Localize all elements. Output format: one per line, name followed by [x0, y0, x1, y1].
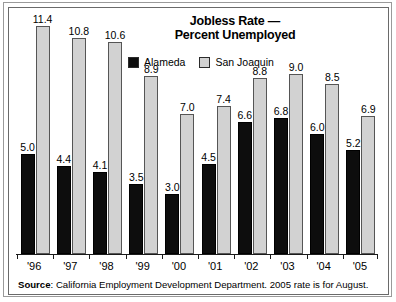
x-axis-label-00: '00: [172, 260, 186, 272]
bar-value-label: 4.1: [93, 159, 108, 171]
bar-san-joaquin-98: 10.6: [108, 42, 122, 254]
x-axis-label-97: '97: [63, 260, 77, 272]
x-axis-tick: [307, 254, 308, 259]
bar-value-label: 4.5: [201, 151, 216, 163]
bar-alameda-02: 6.6: [238, 122, 252, 254]
x-axis-tick: [89, 254, 90, 259]
bar-alameda-98: 4.1: [93, 172, 107, 254]
bar-value-label: 3.5: [129, 171, 144, 183]
x-axis-tick: [198, 254, 199, 259]
x-axis-labels: '96'97'98'99'00'01'02'03'04'05: [16, 260, 378, 274]
bar-san-joaquin-00: 7.0: [180, 114, 194, 254]
bar-value-label: 10.6: [105, 29, 125, 41]
bar-alameda-00: 3.0: [165, 194, 179, 254]
bar-value-label: 6.0: [310, 121, 325, 133]
x-axis-tick: [126, 254, 127, 259]
bar-san-joaquin-04: 8.5: [325, 84, 339, 254]
bar-alameda-01: 4.5: [202, 164, 216, 254]
bar-alameda-96: 5.0: [21, 154, 35, 254]
bar-value-label: 5.0: [20, 141, 35, 153]
x-axis-tick: [53, 254, 54, 259]
bar-san-joaquin-01: 7.4: [217, 106, 231, 254]
bar-value-label: 10.8: [69, 25, 89, 37]
x-axis-tick: [270, 254, 271, 259]
x-axis-label-99: '99: [136, 260, 150, 272]
bar-value-label: 8.5: [325, 71, 340, 83]
bar-value-label: 7.4: [216, 93, 231, 105]
x-axis-label-96: '96: [27, 260, 41, 272]
x-axis-tick: [343, 254, 344, 259]
plot-area: 5.011.44.410.84.110.63.58.93.07.04.57.46…: [16, 14, 378, 254]
bar-value-label: 6.9: [361, 103, 376, 115]
x-axis-label-04: '04: [317, 260, 331, 272]
bar-alameda-99: 3.5: [129, 184, 143, 254]
x-axis-tick: [17, 254, 18, 259]
bar-san-joaquin-97: 10.8: [72, 38, 86, 254]
bar-value-label: 11.4: [33, 13, 53, 25]
source-note-prefix: Source: [18, 279, 51, 290]
bar-alameda-05: 5.2: [346, 150, 360, 254]
bar-san-joaquin-96: 11.4: [36, 26, 50, 254]
x-axis-label-98: '98: [99, 260, 113, 272]
chart-figure: Jobless Rate — Percent Unemployed Alamed…: [0, 0, 396, 302]
bar-alameda-03: 6.8: [274, 118, 288, 254]
bar-alameda-04: 6.0: [310, 134, 324, 254]
bar-san-joaquin-05: 6.9: [361, 116, 375, 254]
x-axis-tick: [234, 254, 235, 259]
bar-san-joaquin-02: 8.8: [253, 78, 267, 254]
x-axis-line: [16, 254, 378, 255]
bar-value-label: 7.0: [180, 101, 195, 113]
x-axis-label-02: '02: [244, 260, 258, 272]
x-axis-tick: [377, 254, 378, 259]
bar-value-label: 6.8: [274, 105, 289, 117]
x-axis-label-03: '03: [280, 260, 294, 272]
x-axis-label-05: '05: [353, 260, 367, 272]
bar-value-label: 9.0: [289, 61, 304, 73]
bar-value-label: 4.4: [56, 153, 71, 165]
bar-value-label: 5.2: [346, 137, 361, 149]
source-note-text: California Employment Development Depart…: [56, 279, 369, 290]
bar-san-joaquin-03: 9.0: [289, 74, 303, 254]
bar-value-label: 6.6: [237, 109, 252, 121]
bar-value-label: 8.9: [144, 63, 159, 75]
x-axis-label-01: '01: [208, 260, 222, 272]
bar-value-label: 3.0: [165, 181, 180, 193]
x-axis-tick: [162, 254, 163, 259]
bar-san-joaquin-99: 8.9: [144, 76, 158, 254]
source-note: Source: California Employment Developmen…: [18, 279, 368, 290]
bar-alameda-97: 4.4: [57, 166, 71, 254]
bar-value-label: 8.8: [252, 65, 267, 77]
